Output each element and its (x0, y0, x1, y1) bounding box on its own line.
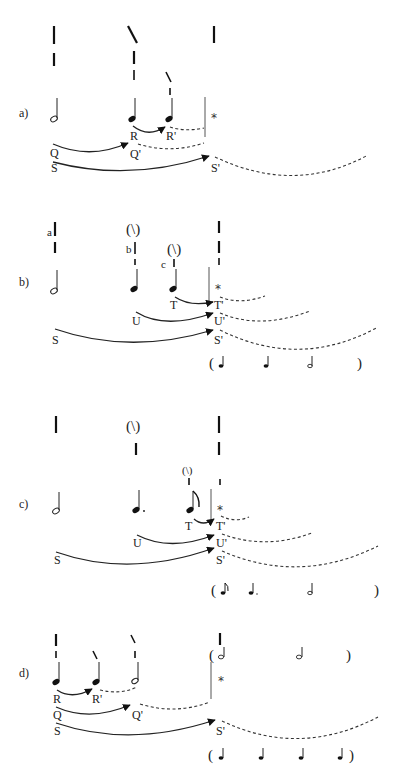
letter-c: c (161, 258, 166, 270)
dashed-projection (100, 687, 137, 692)
half-note (308, 356, 313, 368)
dashed-projection (138, 143, 204, 149)
point-Up: U' (214, 314, 225, 328)
dotted-quarter-note (249, 583, 258, 595)
half-note (131, 662, 139, 685)
point-Rp: R' (92, 692, 102, 706)
paren-open: ( (211, 582, 216, 599)
panel-label: d) (19, 666, 29, 680)
point-Q: Q (50, 146, 59, 160)
point-T: T (170, 298, 178, 312)
point-Sp: S' (216, 724, 225, 738)
quarter-note (219, 748, 224, 760)
eighth-note (221, 583, 229, 595)
letter-a: a (47, 226, 52, 238)
quarter-note (51, 662, 60, 686)
panel-b: a (\) b (\) c b) * (19, 221, 378, 372)
point-S: S (51, 161, 58, 175)
point-Qp: Q' (130, 147, 141, 161)
dashed-projection (222, 717, 378, 739)
star-marker: * (211, 111, 217, 125)
quarter-note (264, 356, 269, 368)
point-U: U (133, 536, 142, 550)
paren-close: ) (346, 647, 351, 664)
point-U: U (132, 314, 141, 328)
arrow-T-to-Tp (175, 297, 213, 304)
point-S: S (52, 333, 59, 347)
half-note (50, 98, 59, 123)
quarter-note (338, 748, 343, 760)
paren-close: ) (349, 747, 354, 764)
meter-slash (93, 651, 97, 659)
meter-slash (166, 72, 171, 82)
quarter-note (259, 748, 264, 760)
arrow-Q-to-Qp (56, 705, 130, 714)
point-Tp: T' (216, 519, 226, 533)
point-S: S (54, 553, 61, 567)
quarter-note (129, 269, 138, 293)
star-marker: * (217, 503, 223, 517)
paren-close: ) (357, 355, 362, 372)
quarter-note (91, 662, 100, 686)
point-S: S (54, 724, 61, 738)
arrow-S-to-Sp (56, 548, 214, 564)
arrow-Q-to-Qp (53, 143, 128, 152)
paren-mark: (\) (182, 464, 193, 477)
dashed-projection (215, 155, 368, 176)
paren-mark: (\) (126, 418, 140, 435)
star-marker: * (218, 674, 224, 688)
dotted-quarter-note (131, 490, 145, 514)
dashed-projection (220, 311, 310, 321)
paren-open: ( (209, 647, 214, 664)
paren-mark: (\) (126, 221, 140, 238)
point-Rp: R' (166, 129, 176, 143)
half-note (50, 270, 59, 295)
half-note (218, 647, 224, 659)
star-marker: * (215, 282, 221, 296)
quarter-note (127, 98, 136, 123)
eighth-note (185, 491, 199, 514)
arrow-R-to-Rp (57, 689, 92, 695)
meter-slash (128, 26, 137, 43)
point-R: R (130, 129, 138, 143)
panel-label: a) (19, 106, 28, 120)
paren-open: ( (209, 355, 214, 372)
point-Tp: T' (214, 298, 224, 312)
panel-c: (\) (\) c) * T T' U U (19, 416, 379, 599)
point-Q: Q (53, 708, 62, 722)
paren-open: ( (208, 747, 213, 764)
half-note (52, 492, 61, 515)
paren-mark: (\) (167, 241, 181, 258)
panel-label: c) (19, 497, 28, 511)
dashed-projection (220, 327, 378, 349)
point-R: R (53, 692, 61, 706)
quarter-note (168, 269, 177, 293)
point-Qp: Q' (132, 708, 143, 722)
panel-d: ( ) d) * R R' Q (19, 633, 378, 764)
dashed-projection (222, 533, 312, 542)
arrow-S-to-Sp (56, 720, 215, 735)
point-T: T (185, 519, 193, 533)
panel-label: b) (19, 275, 29, 289)
arrow-U-to-Up (137, 535, 214, 544)
half-note (296, 647, 302, 659)
arrow-U-to-Up (136, 312, 213, 321)
half-note (308, 583, 313, 595)
panel-a: a) * R R' Q Q' S S' (19, 26, 368, 176)
dashed-projection (140, 702, 210, 709)
dashed-projection (220, 296, 265, 301)
point-Sp: S' (216, 553, 225, 567)
paren-close: ) (374, 582, 379, 599)
arrow-S-to-Sp (55, 329, 213, 342)
point-Sp: S' (214, 333, 223, 347)
metric-projection-diagram: a) * R R' Q Q' S S' a ( (0, 0, 398, 777)
letter-b: b (126, 243, 132, 255)
meter-slash (131, 635, 135, 643)
point-Up: U' (216, 536, 227, 550)
dashed-projection (222, 546, 378, 567)
point-Sp: S' (211, 161, 220, 175)
quarter-note (164, 98, 173, 123)
quarter-note (299, 748, 304, 760)
quarter-note (219, 356, 224, 368)
